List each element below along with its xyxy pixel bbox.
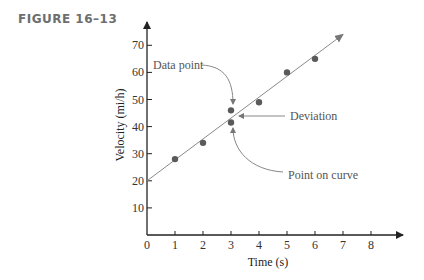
x-tick-label: 3 <box>228 238 234 252</box>
data-point-marker <box>172 156 178 162</box>
y-axis-title: Velocity (mi/h) <box>113 89 127 162</box>
x-axis-title: Time (s) <box>248 255 289 269</box>
data-point-label: Data point <box>153 58 204 72</box>
y-tick-label: 40 <box>132 120 144 134</box>
x-tick-label: 6 <box>312 238 318 252</box>
data-point-marker <box>228 119 234 125</box>
data-point-marker <box>312 56 318 62</box>
data-point-marker <box>284 69 290 75</box>
deviation-label: Deviation <box>290 109 337 123</box>
data-point-marker <box>256 99 262 105</box>
y-tick-label: 50 <box>132 93 144 107</box>
y-ticks: 10203040506070 <box>132 38 152 215</box>
point-on-curve-callout-arrow <box>233 128 283 172</box>
x-tick-label: 8 <box>368 238 374 252</box>
x-tick-label: 0 <box>144 238 150 252</box>
x-tick-label: 4 <box>256 238 262 252</box>
x-tick-label: 7 <box>340 238 346 252</box>
y-tick-label: 70 <box>132 38 144 52</box>
x-tick-label: 1 <box>172 238 178 252</box>
point-on-curve-label: Point on curve <box>288 168 358 182</box>
y-tick-label: 60 <box>132 65 144 79</box>
chart: 012345678 10203040506070 Time (s) Veloci… <box>0 0 424 280</box>
y-tick-label: 20 <box>132 174 144 188</box>
y-tick-label: 30 <box>132 147 144 161</box>
data-point-marker <box>200 140 206 146</box>
y-tick-label: 10 <box>132 201 144 215</box>
x-ticks: 012345678 <box>144 231 374 252</box>
x-tick-label: 5 <box>284 238 290 252</box>
x-tick-label: 2 <box>200 238 206 252</box>
data-point-marker <box>228 107 234 113</box>
data-point-callout-arrow <box>201 65 233 104</box>
